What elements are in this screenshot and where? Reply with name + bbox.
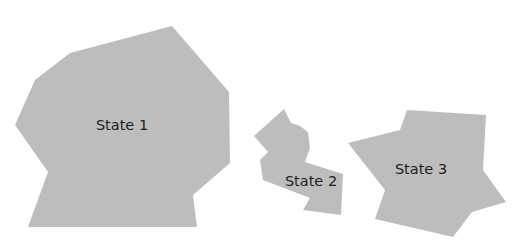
state-2[interactable]: State 2 <box>254 109 343 215</box>
state-diagram: State 1 State 2 State 3 <box>0 0 522 251</box>
state-1-label: State 1 <box>96 117 148 133</box>
state-2-label: State 2 <box>285 173 337 189</box>
state-1[interactable]: State 1 <box>15 26 230 227</box>
state-3[interactable]: State 3 <box>348 110 506 237</box>
state-3-label: State 3 <box>395 161 447 177</box>
state-2-shape[interactable] <box>254 109 343 215</box>
